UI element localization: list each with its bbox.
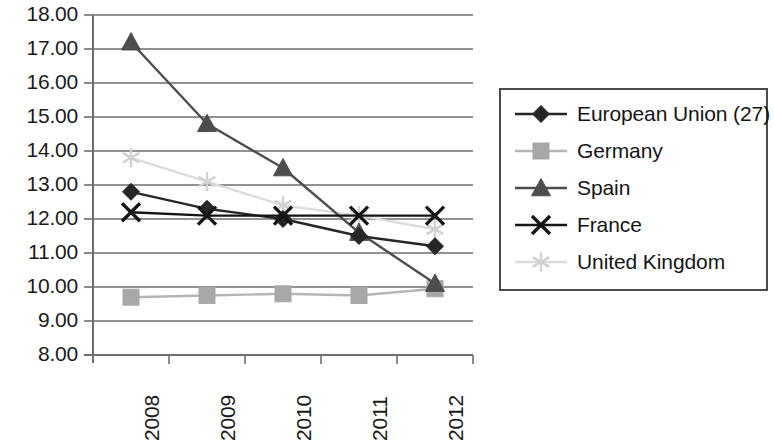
- asterisk-marker-icon: [513, 250, 569, 274]
- legend-item-european-union-27[interactable]: European Union (27): [513, 98, 770, 130]
- x-tick-label-text: 2011: [368, 397, 392, 441]
- x-tick-label-text: 2012: [444, 395, 468, 441]
- diamond-marker-icon: [513, 102, 569, 126]
- chart-legend: European Union (27)GermanySpainFranceUni…: [499, 88, 768, 291]
- cross-marker-icon: [513, 213, 569, 237]
- x-tick-label: 2009: [195, 367, 219, 444]
- x-axis-ticks: [169, 355, 473, 364]
- square-marker-icon: [513, 139, 569, 163]
- legend-label: United Kingdom: [577, 250, 725, 274]
- x-tick-label: 2011: [347, 367, 371, 444]
- legend-marker: [533, 106, 550, 123]
- series-point-marker: [274, 159, 293, 176]
- series-point-marker: [275, 286, 291, 302]
- legend-label: France: [577, 213, 642, 237]
- gridlines: [84, 15, 473, 355]
- series-point-marker: [351, 228, 368, 245]
- x-tick-label-text: 2010: [292, 395, 316, 441]
- x-tick-label: 2012: [423, 367, 447, 444]
- series-point-marker: [123, 183, 140, 200]
- series-point-marker: [275, 211, 292, 228]
- legend-label: Spain: [577, 176, 630, 200]
- series-point-marker: [199, 288, 215, 304]
- x-tick-label: 2010: [271, 367, 295, 444]
- data-series: [122, 33, 445, 306]
- legend-item-united-kingdom[interactable]: United Kingdom: [513, 246, 725, 278]
- x-tick-label: 2008: [119, 367, 143, 444]
- legend-label: Germany: [577, 139, 663, 163]
- x-tick-label-text: 2008: [140, 395, 164, 441]
- axis-lines: [84, 15, 473, 363]
- triangle-marker-icon: [513, 176, 569, 200]
- series-point-marker: [199, 172, 215, 191]
- series-point-marker: [122, 33, 141, 50]
- legend-label: European Union (27): [577, 102, 770, 126]
- x-tick-label-text: 2009: [216, 395, 240, 441]
- series-point-marker: [427, 238, 444, 255]
- legend-item-germany[interactable]: Germany: [513, 135, 663, 167]
- series-germany: [123, 281, 443, 306]
- series-point-marker: [351, 288, 367, 304]
- series-point-marker: [123, 289, 139, 305]
- legend-item-spain[interactable]: Spain: [513, 172, 630, 204]
- legend-marker: [533, 143, 549, 159]
- legend-item-france[interactable]: France: [513, 209, 642, 241]
